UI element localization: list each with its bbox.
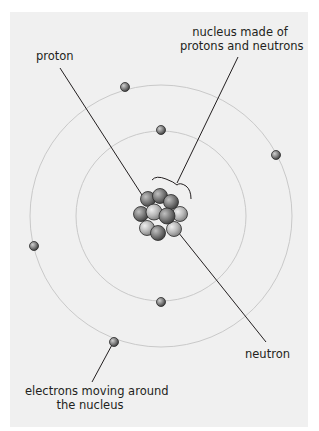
electron bbox=[157, 298, 166, 307]
nucleus-label-line2: protons and neutrons bbox=[180, 39, 300, 53]
electron bbox=[157, 126, 166, 135]
proton-label: proton bbox=[36, 49, 74, 63]
neutron-label: neutron bbox=[245, 347, 290, 361]
nucleus bbox=[134, 189, 188, 241]
electron bbox=[30, 242, 39, 251]
electron bbox=[110, 338, 119, 347]
electron-leader-line bbox=[92, 343, 113, 382]
electron bbox=[272, 151, 281, 160]
electron bbox=[121, 83, 130, 92]
nucleus-label-line1: nucleus made of bbox=[180, 25, 300, 39]
electrons-label-line2: the nucleus bbox=[25, 398, 155, 412]
neutron-leader-line bbox=[178, 232, 266, 342]
electrons-label: electrons moving around the nucleus bbox=[25, 384, 155, 412]
atom-diagram bbox=[0, 0, 319, 431]
nucleus-label: nucleus made of protons and neutrons bbox=[180, 25, 300, 53]
electrons-label-line1: electrons moving around bbox=[25, 384, 155, 398]
